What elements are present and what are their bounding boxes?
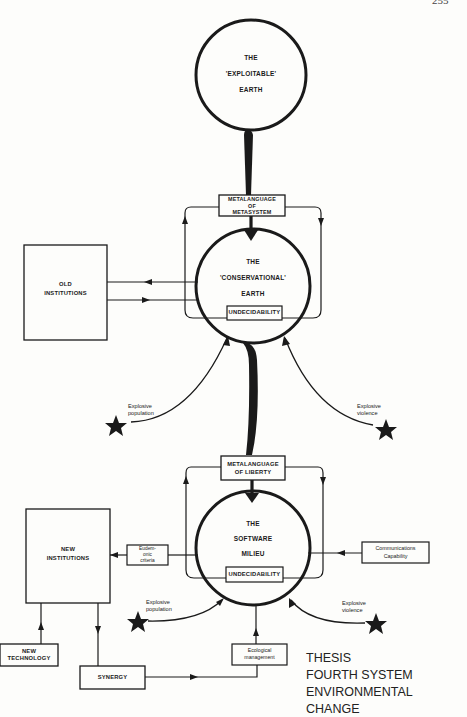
software-milieu-title: THE: [223, 520, 283, 527]
stem-2: [243, 343, 258, 455]
stem-1: [244, 130, 253, 195]
star-icon: [365, 613, 387, 634]
eudemonic-criteria-label[interactable]: Eudem- onic criteria: [127, 546, 168, 564]
caption-thesis: THESIS: [306, 650, 467, 667]
explosive-violence-2-label: Explosive violence: [342, 600, 382, 614]
star-icon: [105, 415, 127, 436]
conservational-earth-circle: [196, 229, 310, 343]
star-icon: [375, 419, 397, 440]
exploitable-earth-subtitle: 'EXPLOITABLE': [211, 70, 291, 77]
communications-capability-label[interactable]: Communications Capability: [362, 545, 429, 560]
metalanguage-metasystem-label[interactable]: METALANGUAGE OF METASYSTEM: [219, 196, 285, 216]
liberty-loop-left: [186, 467, 226, 578]
ecological-management-label[interactable]: Ecological management: [232, 647, 287, 661]
explosive-population-1-label: Explosive population: [128, 403, 168, 417]
explosive-population-2-label: Explosive population: [146, 599, 186, 613]
conservational-earth-subtitle: 'CONSERVATIONAL': [208, 274, 298, 281]
exploitable-earth-name: EARTH: [221, 86, 281, 93]
software-milieu-subtitle: SOFTWARE: [218, 535, 288, 542]
star-icon: [127, 611, 149, 632]
synergy-label[interactable]: SYNERGY: [80, 674, 145, 681]
undecidability-label-2[interactable]: UNDECIDABILITY: [226, 571, 283, 578]
software-milieu-circle: [196, 491, 310, 605]
metalanguage-liberty-label[interactable]: METALANGUAGE OF LIBERTY: [221, 460, 285, 476]
conservational-earth-name: EARTH: [223, 290, 283, 297]
old-institutions-label[interactable]: OLD INSTITUTIONS: [24, 280, 107, 298]
exploitable-earth-title: THE: [221, 54, 281, 61]
explosive-violence-1-label: Explosive violence: [357, 403, 397, 417]
undecidability-label-1[interactable]: UNDECIDABILITY: [227, 309, 282, 316]
caption-environmental-change: ENVIRONMENTAL CHANGE: [306, 684, 467, 717]
figure-caption: THESIS FOURTH SYSTEM ENVIRONMENTAL CHANG…: [306, 650, 467, 717]
metasystem-loop-left: [185, 207, 227, 318]
new-technology-label[interactable]: NEW TECHNOLOGY: [0, 648, 58, 662]
synergy-to-ecological-line: [145, 664, 257, 677]
new-institutions-label[interactable]: NEW INSTITUTIONS: [26, 545, 110, 563]
conservational-earth-title: THE: [223, 258, 283, 265]
software-milieu-name: MILIEU: [223, 550, 283, 557]
metasystem-loop-right: [282, 207, 321, 318]
caption-fourth-system: FOURTH SYSTEM: [306, 667, 467, 684]
